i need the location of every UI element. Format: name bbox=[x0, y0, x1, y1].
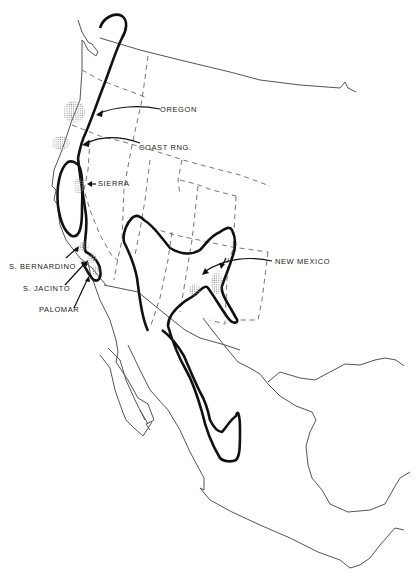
stipple-palomar bbox=[92, 266, 100, 276]
label-oregon: OREGON bbox=[160, 105, 197, 114]
label-coast-rng: COAST RNG. bbox=[139, 143, 192, 152]
range-sierra-madre bbox=[124, 216, 240, 461]
coastline bbox=[52, 20, 410, 568]
stipple-oregon bbox=[63, 101, 85, 123]
stipple-sierra bbox=[74, 178, 84, 194]
stipple-s-jacinto bbox=[87, 253, 97, 263]
stipple-coast-rng bbox=[52, 136, 70, 150]
arrow-oregon bbox=[98, 107, 160, 114]
stipple-new-mexico-2 bbox=[189, 284, 201, 296]
label-palomar: PALOMAR bbox=[39, 305, 79, 314]
label-sierra: SIERRA bbox=[98, 179, 130, 188]
arrowhead-palomar bbox=[85, 276, 90, 282]
stipple-s-bernardino bbox=[79, 241, 89, 251]
label-new-mexico: NEW MEXICO bbox=[275, 257, 330, 266]
state-boundaries bbox=[72, 56, 270, 328]
arrowhead-sierra bbox=[87, 181, 92, 187]
label-s-bernardino: S. BERNARDINO bbox=[9, 262, 76, 271]
range-outlines bbox=[57, 15, 240, 462]
arrowhead-oregon bbox=[96, 110, 103, 117]
arrowhead-new-mexico-2 bbox=[219, 263, 225, 269]
arrow-new-mexico bbox=[204, 259, 272, 272]
stipple-new-mexico-1 bbox=[211, 272, 223, 294]
stippled-localities bbox=[52, 101, 223, 296]
arrow-palomar bbox=[74, 278, 88, 308]
arrow-coast-rng bbox=[85, 138, 140, 144]
range-pacific-nw bbox=[78, 15, 126, 158]
label-s-jacinto: S. JACINTO bbox=[23, 284, 70, 293]
leader-arrows bbox=[65, 107, 272, 308]
